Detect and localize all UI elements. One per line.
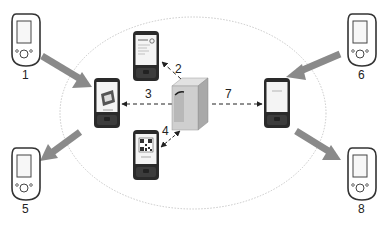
label-2: 2 <box>175 62 182 76</box>
label-6: 6 <box>358 68 365 82</box>
big-arrow-1-to-left-phone <box>42 56 92 88</box>
pda-icon-5 <box>12 148 40 200</box>
label-8: 8 <box>358 202 365 216</box>
label-7: 7 <box>225 87 232 101</box>
pda-icon-1 <box>12 14 40 66</box>
label-3: 3 <box>145 87 152 101</box>
server-icon <box>172 78 208 130</box>
label-4: 4 <box>162 124 169 138</box>
diagram-canvas: 1 2 3 4 5 6 7 8 <box>0 0 386 226</box>
pda-icon-8 <box>348 148 376 200</box>
big-arrow-left-phone-to-5 <box>40 132 80 161</box>
smartphone-left <box>94 78 120 128</box>
label-1: 1 <box>22 68 29 82</box>
big-arrow-6-to-right-phone <box>286 54 340 80</box>
label-5: 5 <box>22 202 29 216</box>
smartphone-right <box>264 78 290 128</box>
smartphone-top <box>133 31 159 81</box>
big-arrow-right-phone-to-8 <box>296 131 341 160</box>
smartphone-bottom <box>133 130 159 180</box>
pda-icon-6 <box>348 14 376 66</box>
